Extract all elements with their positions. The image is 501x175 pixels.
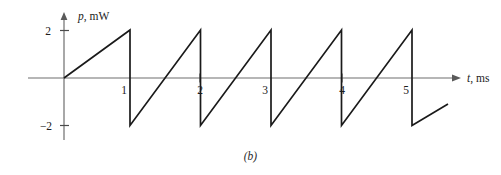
x-axis-label-unit: , ms [470, 72, 490, 85]
y-tick-label-2: 2 [45, 25, 51, 37]
x-tick-label-4: 4 [339, 84, 345, 96]
x-axis-label: t, ms [467, 72, 490, 85]
figure-container: 2 −2 1 2 3 4 5 p, mW t, ms (b) [0, 0, 501, 175]
figure-caption: (b) [0, 150, 501, 162]
x-tick-label-1: 1 [121, 84, 127, 96]
y-axis-label: p, mW [77, 10, 109, 23]
x-tick-label-3: 3 [262, 84, 268, 96]
y-axis-arrowhead [61, 12, 68, 20]
x-tick-label-5: 5 [403, 84, 409, 96]
x-axis-arrowhead [452, 75, 461, 82]
x-tick-label-2: 2 [197, 84, 203, 96]
y-axis-label-unit: , mW [84, 10, 110, 23]
sawtooth-waveform-chart: 2 −2 1 2 3 4 5 p, mW t, ms [0, 0, 501, 175]
y-tick-label-minus-2: −2 [40, 120, 52, 132]
